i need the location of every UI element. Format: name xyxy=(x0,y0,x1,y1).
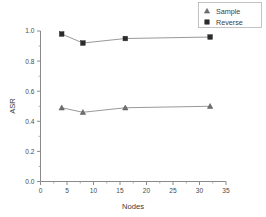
x-axis-title: Nodes xyxy=(122,202,144,211)
data-point-marker xyxy=(59,105,64,110)
square-marker-icon xyxy=(205,20,209,24)
y-axis-ticks: 0.00.20.40.60.81.0 xyxy=(25,27,40,185)
y-tick-label: 0.8 xyxy=(25,58,34,65)
chart-figure: 0.00.20.40.60.81.0 05101520253035 Nodes … xyxy=(0,0,266,217)
x-tick-label: 5 xyxy=(65,187,69,194)
y-tick-label: 0.0 xyxy=(25,178,34,185)
y-tick-label: 1.0 xyxy=(25,27,34,34)
y-tick-label: 0.2 xyxy=(25,148,34,155)
y-tick-label: 0.6 xyxy=(25,88,34,95)
legend-entry-label[interactable]: Sample xyxy=(216,7,240,16)
x-tick-label: 15 xyxy=(116,187,124,194)
series-reverse xyxy=(59,32,212,46)
chart-series-layer xyxy=(59,32,213,115)
x-tick-label: 25 xyxy=(169,187,177,194)
x-tick-label: 30 xyxy=(196,187,204,194)
x-tick-label: 20 xyxy=(143,187,151,194)
data-point-marker xyxy=(208,35,213,40)
x-tick-label: 35 xyxy=(222,187,230,194)
y-axis-title: ASR xyxy=(8,98,17,114)
data-point-marker xyxy=(59,32,64,37)
legend-entry-label[interactable]: Reverse xyxy=(216,18,243,27)
series-sample xyxy=(59,104,213,115)
y-tick-label: 0.4 xyxy=(25,118,34,125)
x-tick-label: 0 xyxy=(39,187,43,194)
chart-plot-area: 0.00.20.40.60.81.0 05101520253035 Nodes … xyxy=(0,0,266,217)
data-point-marker xyxy=(81,41,86,46)
x-axis-ticks: 05101520253035 xyxy=(39,182,230,194)
chart-legend[interactable]: SampleReverse xyxy=(199,3,262,28)
data-point-marker xyxy=(123,36,128,41)
x-tick-label: 10 xyxy=(90,187,98,194)
